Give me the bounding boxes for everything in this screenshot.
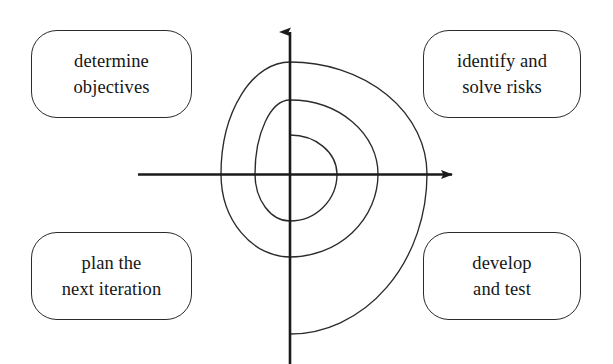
label-plan-the-next-iteration[interactable]: plan the next iteration [31, 232, 192, 320]
label-line-2: objectives [73, 74, 149, 100]
label-develop-and-test[interactable]: develop and test [423, 232, 581, 320]
label-line-2: solve risks [462, 74, 542, 100]
label-determine-objectives[interactable]: determine objectives [31, 30, 192, 118]
spiral-curve [221, 62, 427, 334]
label-line-1: plan the [82, 250, 142, 276]
label-line-2: next iteration [62, 276, 162, 302]
label-identify-and-solve-risks[interactable]: identify and solve risks [423, 30, 581, 118]
label-line-1: develop [472, 250, 531, 276]
label-line-2: and test [473, 276, 531, 302]
diagram-canvas: determine objectives identify and solve … [0, 0, 613, 364]
label-line-1: identify and [457, 48, 547, 74]
label-line-1: determine [74, 48, 149, 74]
